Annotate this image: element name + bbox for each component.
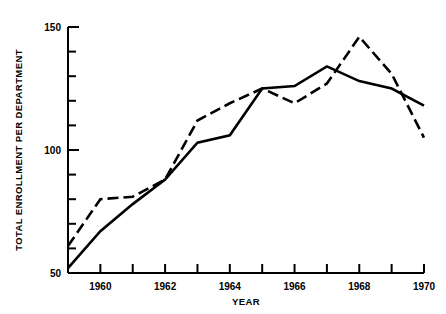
enrollment-line-chart: 50100150 196019621964196619681970 YEAR T… [0, 0, 446, 314]
x-tick-label: 1970 [413, 281, 436, 292]
x-tick-label: 1968 [348, 281, 371, 292]
x-axis-title: YEAR [232, 296, 260, 307]
x-tick-label: 1964 [219, 281, 242, 292]
data-series-group [68, 37, 424, 268]
y-tick-label: 150 [44, 22, 61, 33]
x-tick-label: 1966 [283, 281, 306, 292]
y-axis-ticks [68, 27, 79, 273]
x-tick-label: 1960 [89, 281, 112, 292]
y-axis-tick-labels: 50100150 [44, 22, 61, 279]
x-axis-tick-labels: 196019621964196619681970 [89, 281, 435, 292]
y-tick-label: 100 [44, 145, 61, 156]
y-tick-label: 50 [50, 268, 62, 279]
chart-canvas: 50100150 196019621964196619681970 YEAR T… [0, 0, 446, 314]
x-axis-ticks [100, 264, 424, 273]
x-tick-label: 1962 [154, 281, 177, 292]
y-axis-title: TOTAL ENROLLMENT PER DEPARTMENT [13, 49, 24, 251]
axes [68, 27, 424, 273]
